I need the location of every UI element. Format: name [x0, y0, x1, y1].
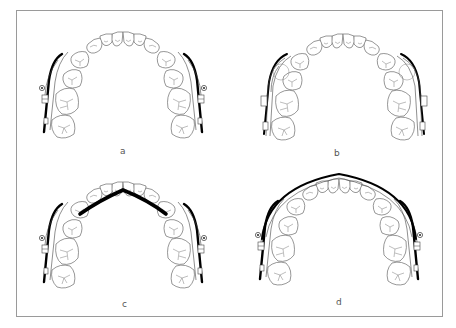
panel-c	[39, 182, 206, 288]
panel-a	[39, 32, 206, 138]
panel-label-b: b	[334, 149, 340, 158]
panel-label-c: c	[122, 300, 127, 309]
panel-label-a: a	[120, 147, 126, 156]
dental-arch-diagram	[0, 0, 456, 328]
panel-d	[255, 174, 422, 285]
panel-label-d: d	[336, 298, 342, 307]
panel-b	[261, 34, 427, 140]
